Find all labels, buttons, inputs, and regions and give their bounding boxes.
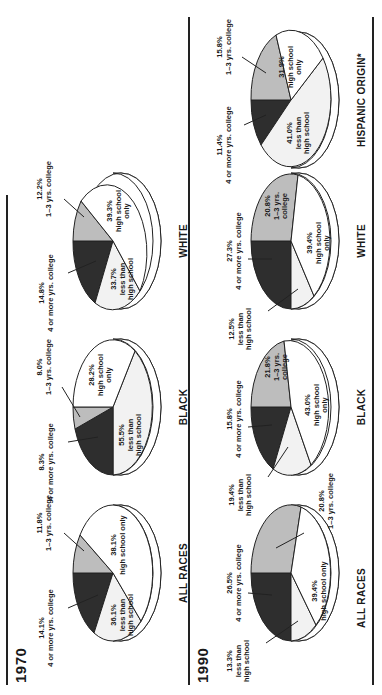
label-4plus-college: 14.1%4 or more yrs. college <box>38 589 55 667</box>
middle-rule <box>188 17 190 685</box>
label-less-than-hs: 33.7%less thanhigh school <box>110 258 136 300</box>
top-rule <box>6 195 8 685</box>
label-less-than-hs: 55.5%less thanhigh school <box>118 414 144 456</box>
pie-1970-white: 14.8%4 or more yrs. college 12.2%1–3 yrs… <box>28 131 198 351</box>
pie-caption: ALL RACES <box>356 488 367 695</box>
label-1-3-college: 20.8%1–3 yrs.college <box>264 192 290 220</box>
label-1-3-college: 15.8%1–3 yrs. college <box>216 19 233 75</box>
label-less-than-hs: 41.0%less thanhigh school <box>286 112 312 154</box>
label-hs-only: 38.1%high school only <box>110 515 127 575</box>
year-1970-heading: 1970 <box>12 648 29 683</box>
pie-1990-hispanic: 11.4%4 or more yrs. college 15.8%1–3 yrs… <box>206 5 376 195</box>
label-4plus-college: 26.5%4 or more yrs. college <box>226 544 243 622</box>
label-hs-only: 31.9%high schoolonly <box>278 46 304 88</box>
chart-page: 1970 14.1%4 or more yrs. college 11.8%1–… <box>0 0 382 695</box>
label-4plus-college: 11.4%4 or more yrs. college <box>216 106 233 184</box>
label-less-than-hs: 36.1%less thanhigh school <box>110 594 136 636</box>
label-less-than-hs: 12.5%less thanhigh school <box>228 308 254 350</box>
label-hs-only: 39.3%high schoolonly <box>106 190 132 232</box>
label-1-3-college: 12.2%1–3 yrs. college <box>36 161 53 217</box>
label-hs-only: 28.2%high schoolonly <box>88 354 114 396</box>
label-less-than-hs: 13.3%less thanhigh school <box>226 640 252 682</box>
bottom-rule <box>372 17 374 685</box>
label-4plus-college: 8.3%4 or more yrs. college <box>38 423 55 501</box>
label-1-3-college: 21.8%1–3 yrs.college <box>264 353 290 381</box>
pie-caption: HISPANIC ORIGIN* <box>356 5 367 195</box>
label-4plus-college: 14.8%4 or more yrs. college <box>38 254 55 332</box>
label-4plus-college: 27.3%4 or more yrs. college <box>226 212 243 290</box>
label-4plus-college: 15.8%4 or more yrs. college <box>226 380 243 458</box>
label-hs-only: 39.4%high school only <box>311 561 328 621</box>
label-less-than-hs: 19.4%less thanhigh school <box>228 474 254 516</box>
label-hs-only: 39.4%high schoolonly <box>306 222 332 264</box>
label-hs-only: 43.0%high schoolonly <box>304 384 330 426</box>
